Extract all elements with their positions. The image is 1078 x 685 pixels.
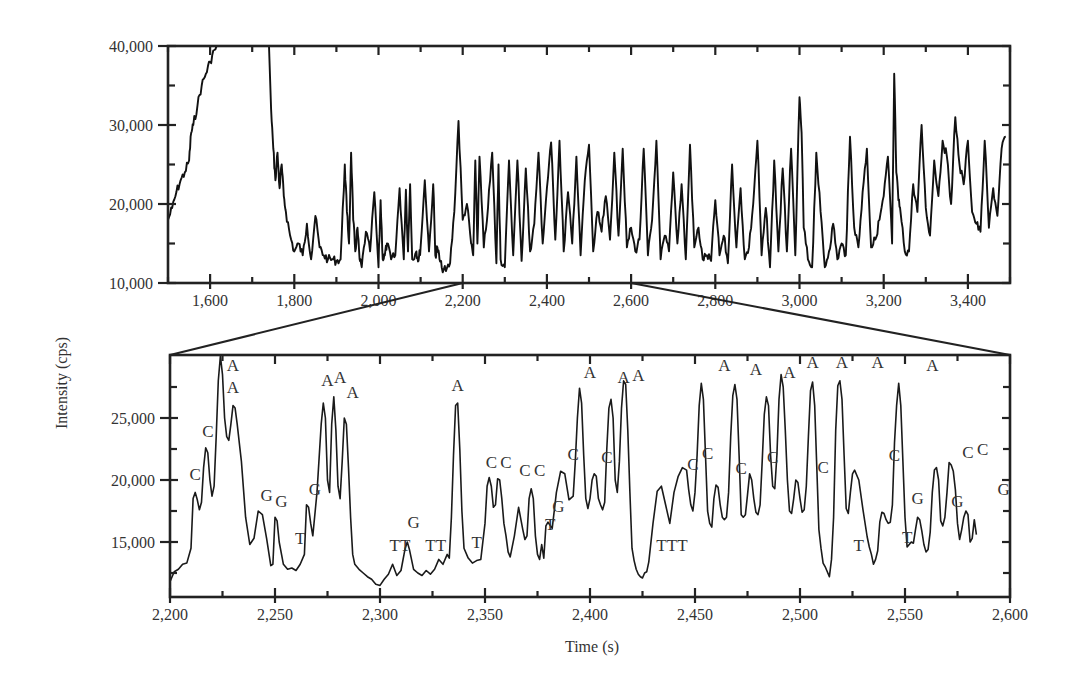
base-call-t: T: [390, 536, 401, 555]
detail-y-tick-labels: 15,00020,00025,000: [111, 410, 155, 551]
x-tick-label: 2,500: [782, 606, 818, 623]
base-call-g: G: [275, 492, 287, 511]
base-call-a: A: [750, 360, 763, 379]
base-call-a: A: [836, 353, 849, 372]
x-tick-label: 2,600: [992, 606, 1028, 623]
base-call-t: T: [656, 536, 667, 555]
base-call-c: C: [962, 443, 973, 462]
y-tick-label: 30,000: [109, 117, 153, 134]
base-call-g: G: [951, 492, 963, 511]
base-call-a: A: [227, 378, 240, 397]
base-call-t: T: [902, 528, 913, 547]
detail-plot: 2,2002,2502,3002,3502,4002,4502,5002,550…: [111, 353, 1028, 623]
base-call-c: C: [500, 453, 511, 472]
base-call-c: C: [534, 461, 545, 480]
y-tick-label: 10,000: [109, 275, 153, 292]
base-call-c: C: [736, 459, 747, 478]
base-call-t: T: [677, 536, 688, 555]
x-tick-label: 2,600: [613, 292, 649, 309]
detail-x-tick-labels: 2,2002,2502,3002,3502,4002,4502,5002,550…: [152, 606, 1028, 623]
x-tick-label: 2,200: [152, 606, 188, 623]
dna-sequencing-chromatogram-figure: 1,6001,8002,0002,2002,4002,6002,8003,000…: [0, 0, 1078, 685]
base-call-a: A: [718, 356, 731, 375]
x-tick-label: 2,400: [529, 292, 565, 309]
base-call-g: G: [911, 489, 923, 508]
overview-plot: 1,6001,8002,0002,2002,4002,6002,8003,000…: [109, 38, 1010, 309]
base-call-a: A: [584, 363, 597, 382]
base-call-a: A: [806, 353, 819, 372]
x-tick-label: 3,000: [782, 292, 818, 309]
x-tick-label: 1,800: [276, 292, 312, 309]
base-call-c: C: [767, 448, 778, 467]
base-call-t: T: [667, 536, 678, 555]
base-call-c: C: [702, 444, 713, 463]
base-call-c: C: [202, 422, 213, 441]
base-call-labels: CCAAGGTGAAATTGTTATCCCCTGCACAATTTCCACACAA…: [190, 353, 1010, 554]
base-call-c: C: [817, 458, 828, 477]
x-tick-label: 2,200: [445, 292, 481, 309]
base-call-c: C: [687, 455, 698, 474]
base-call-a: A: [227, 356, 240, 375]
base-call-t: T: [854, 536, 865, 555]
overview-trace: [168, 46, 1006, 272]
base-call-c: C: [190, 465, 201, 484]
x-tick-label: 1,600: [192, 292, 228, 309]
base-call-t: T: [400, 536, 411, 555]
base-call-a: A: [783, 363, 796, 382]
x-tick-label: 3,400: [950, 292, 986, 309]
overview-y-tick-labels: 10,00020,00030,00040,000: [109, 38, 153, 292]
base-call-c: C: [519, 461, 530, 480]
base-call-c: C: [889, 446, 900, 465]
base-call-a: A: [926, 356, 939, 375]
base-call-t: T: [545, 515, 556, 534]
base-call-a: A: [617, 368, 630, 387]
base-call-t: T: [436, 536, 447, 555]
base-call-c: C: [486, 453, 497, 472]
x-axis-title: Time (s): [565, 638, 619, 656]
base-call-g: G: [552, 497, 564, 516]
base-call-c: C: [601, 448, 612, 467]
y-tick-label: 15,000: [111, 534, 155, 551]
x-tick-label: 3,200: [866, 292, 902, 309]
base-call-a: A: [347, 383, 360, 402]
base-call-a: A: [321, 371, 334, 390]
base-call-c: C: [568, 445, 579, 464]
overview-x-tick-labels: 1,6001,8002,0002,2002,4002,6002,8003,000…: [192, 292, 986, 309]
overview-axis-ticks: [158, 46, 1010, 289]
y-tick-label: 40,000: [109, 38, 153, 55]
base-call-a: A: [872, 353, 885, 372]
x-tick-label: 2,550: [887, 606, 923, 623]
base-call-a: A: [334, 368, 347, 387]
detail-plot-frame: [170, 355, 1010, 597]
base-call-g: G: [998, 480, 1010, 499]
base-call-a: A: [452, 376, 465, 395]
base-call-a: A: [632, 366, 645, 385]
y-tick-label: 20,000: [111, 472, 155, 489]
x-tick-label: 2,250: [257, 606, 293, 623]
x-tick-label: 2,300: [362, 606, 398, 623]
y-axis-title: Intensity (cps): [53, 337, 71, 429]
x-tick-label: 2,350: [467, 606, 503, 623]
x-tick-label: 2,400: [572, 606, 608, 623]
base-call-c: C: [977, 440, 988, 459]
y-tick-label: 20,000: [109, 196, 153, 213]
y-tick-label: 25,000: [111, 410, 155, 427]
x-tick-label: 2,450: [677, 606, 713, 623]
base-call-g: G: [407, 513, 419, 532]
base-call-t: T: [471, 533, 482, 552]
overview-signal-line: [168, 46, 1006, 272]
base-call-t: T: [425, 536, 436, 555]
base-call-t: T: [295, 529, 306, 548]
base-call-g: G: [309, 480, 321, 499]
base-call-g: G: [260, 486, 272, 505]
